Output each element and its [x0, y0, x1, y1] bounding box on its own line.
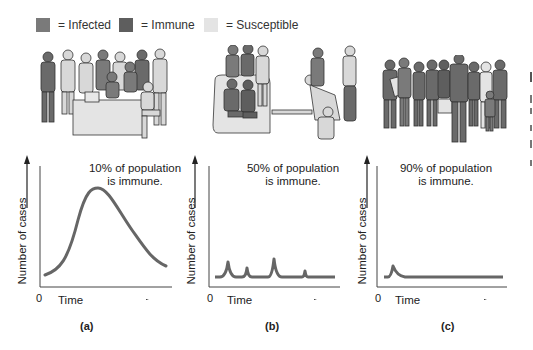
immune-swatch-icon [119, 18, 133, 32]
panel-c-xlabel: Time [395, 294, 420, 306]
panel-b-xlabel: Time [227, 294, 252, 306]
caption-line1: 90% of population [381, 162, 511, 175]
legend-immune: = Immune [119, 17, 195, 33]
susceptible-swatch-icon [204, 18, 218, 32]
legend-immune-label: = Immune [141, 18, 195, 32]
group-standing-illustration [372, 55, 512, 150]
legend-susceptible-label: = Susceptible [226, 18, 298, 32]
panel-c-origin: 0 [375, 292, 381, 304]
panel-c-label: (c) [441, 320, 454, 332]
panel-a-xlabel: Time [58, 294, 83, 306]
panel-b-caption: 50% of population is immune. [228, 162, 358, 188]
caption-line2: is immune. [381, 175, 511, 188]
cropped-text-edge [529, 70, 533, 180]
lounge-illustration [210, 45, 360, 145]
panel-b-origin: 0 [207, 292, 213, 304]
caption-line1: 50% of population [228, 162, 358, 175]
legend-infected: = Infected [36, 17, 111, 33]
caption-line2: is immune. [228, 175, 358, 188]
panel-a-ylabel: Number of cases [16, 186, 28, 296]
crowd-table-illustration [30, 45, 180, 145]
legend-infected-label: = Infected [58, 18, 111, 32]
panel-b-ylabel: Number of cases [185, 186, 197, 296]
panel-c-ylabel: Number of cases [356, 186, 368, 296]
infected-swatch-icon [36, 18, 50, 32]
panel-a-label: (a) [80, 320, 93, 332]
legend-susceptible: = Susceptible [204, 17, 298, 33]
panel-b-label: (b) [265, 320, 279, 332]
panel-c-caption: 90% of population is immune. [381, 162, 511, 188]
panel-a-origin: 0 [36, 292, 42, 304]
